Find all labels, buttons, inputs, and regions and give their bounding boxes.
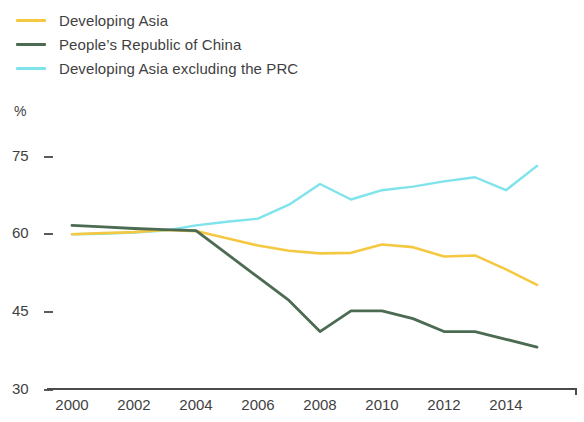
legend-item-prc: People’s Republic of China	[16, 32, 436, 56]
legend-swatch-icon-prc	[16, 43, 46, 46]
x-axis-tick-label-2010: 2010	[365, 396, 398, 413]
x-axis-tick-label-2006: 2006	[241, 396, 274, 413]
legend-label-prc: People’s Republic of China	[59, 36, 241, 53]
legend-item-developing-asia: Developing Asia	[16, 8, 436, 32]
legend-label-developing-asia-ex-prc: Developing Asia excluding the PRC	[59, 60, 298, 77]
y-axis-tick-mark-60	[44, 233, 53, 235]
line-prc	[72, 225, 537, 347]
y-axis-unit-label: %	[14, 103, 26, 119]
legend-item-developing-asia-ex-prc: Developing Asia excluding the PRC	[16, 56, 436, 80]
legend-swatch-icon-developing-asia-ex-prc	[16, 67, 46, 70]
y-axis-tick-mark-75	[44, 156, 53, 158]
x-axis-tick-label-2012: 2012	[427, 396, 460, 413]
chart-container: Developing Asia People’s Republic of Chi…	[0, 0, 584, 422]
x-axis-tick-label-2008: 2008	[303, 396, 336, 413]
chart-legend: Developing Asia People’s Republic of Chi…	[16, 8, 436, 80]
y-axis-tick-mark-45	[44, 311, 53, 313]
line-developing-asia	[72, 230, 537, 285]
legend-label-developing-asia: Developing Asia	[59, 12, 168, 29]
line-developing-asia-ex-prc	[72, 166, 537, 234]
x-axis-end-tick	[575, 388, 577, 395]
x-axis-tick-label-2014: 2014	[489, 396, 522, 413]
x-axis-tick-label-2002: 2002	[117, 396, 150, 413]
legend-swatch-icon-developing-asia	[16, 19, 46, 22]
x-axis-tick-label-2004: 2004	[179, 396, 212, 413]
x-axis-tick-label-2000: 2000	[55, 396, 88, 413]
x-axis-line	[47, 388, 575, 390]
